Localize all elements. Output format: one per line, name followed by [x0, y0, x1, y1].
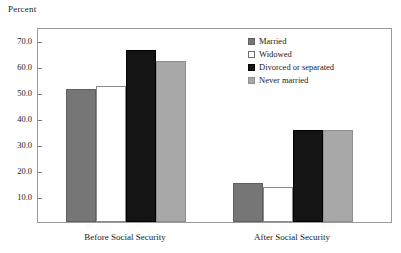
legend-item: Married: [248, 36, 334, 47]
bar: [323, 130, 353, 222]
legend-item: Widowed: [248, 49, 334, 60]
legend-swatch-icon: [248, 51, 255, 58]
bar: [156, 61, 186, 222]
bar: [96, 86, 126, 223]
y-axis-tick-label: 40.0: [17, 114, 32, 124]
legend-item: Never married: [248, 75, 334, 86]
x-axis-category-label: Before Social Security: [84, 232, 165, 242]
legend-item-label: Widowed: [259, 49, 292, 60]
y-axis-tick-mark: [38, 120, 42, 121]
x-axis-category-label: After Social Security: [254, 232, 330, 242]
plot-area: 10.020.030.040.050.060.070.0: [38, 29, 391, 222]
legend-swatch-icon: [248, 38, 255, 45]
bar: [263, 187, 293, 222]
legend-item-label: Never married: [259, 75, 308, 86]
bar: [233, 183, 263, 222]
legend-item: Divorced or separated: [248, 62, 334, 73]
bar-chart: Percent 10.020.030.040.050.060.070.0 Mar…: [0, 0, 401, 253]
y-axis-tick-label: 10.0: [17, 192, 32, 202]
y-axis-title: Percent: [8, 4, 36, 14]
plot-frame: 10.020.030.040.050.060.070.0: [37, 28, 392, 223]
y-axis-tick-label: 50.0: [17, 88, 32, 98]
y-axis-tick-mark: [38, 198, 42, 199]
legend: MarriedWidowedDivorced or separatedNever…: [248, 36, 334, 86]
y-axis-tick-label: 30.0: [17, 140, 32, 150]
bar: [66, 89, 96, 222]
legend-item-label: Married: [259, 36, 286, 47]
legend-item-label: Divorced or separated: [259, 62, 334, 73]
y-axis-tick-mark: [38, 42, 42, 43]
legend-swatch-icon: [248, 64, 255, 71]
legend-swatch-icon: [248, 77, 255, 84]
bar: [293, 130, 323, 222]
y-axis-tick-label: 70.0: [17, 36, 32, 46]
bar: [126, 50, 156, 222]
y-axis-tick-label: 20.0: [17, 166, 32, 176]
y-axis-tick-label: 60.0: [17, 62, 32, 72]
y-axis-tick-mark: [38, 94, 42, 95]
y-axis-tick-mark: [38, 68, 42, 69]
y-axis-tick-mark: [38, 172, 42, 173]
y-axis-tick-mark: [38, 146, 42, 147]
